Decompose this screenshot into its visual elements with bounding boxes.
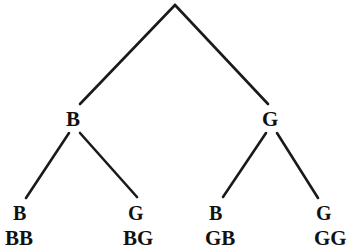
probability-tree-diagram: B G B G B G BB BG GB GG [0, 0, 357, 252]
edge-b-to-bb [26, 133, 69, 198]
edge-g-to-gg [277, 133, 318, 198]
tree-branches [0, 0, 357, 252]
edge-root-to-g [175, 5, 268, 104]
edge-b-to-bg [80, 133, 137, 197]
node-level1-g: G [262, 109, 278, 130]
outcome-label-gg: GG [314, 228, 347, 249]
node-leaf-gb: B [209, 203, 222, 223]
node-leaf-bb: B [13, 203, 26, 223]
node-level1-b: B [66, 109, 80, 130]
node-leaf-bg: G [128, 203, 144, 223]
outcome-label-bb: BB [5, 228, 33, 249]
node-leaf-gg: G [316, 203, 332, 223]
edge-g-to-gb [223, 133, 266, 197]
outcome-label-bg: BG [123, 228, 153, 249]
outcome-label-gb: GB [205, 228, 235, 249]
edge-root-to-b [80, 5, 175, 104]
